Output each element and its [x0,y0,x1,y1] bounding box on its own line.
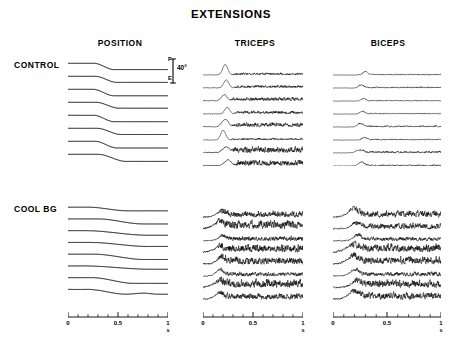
trace-line [333,71,441,75]
trace-line [68,278,168,284]
trace-group [203,62,303,166]
trace-line [203,130,303,140]
trace-line [68,231,168,236]
trace-line [333,149,441,153]
trace-line [68,219,168,224]
trace-line [333,221,441,229]
trace-line [68,63,168,69]
trace-line [68,115,168,121]
trace-line [203,277,303,288]
trace-line [203,234,303,241]
trace-line [333,111,441,114]
trace-line [333,241,441,253]
calibration-bar: F E 40° [168,57,198,87]
trace-line [203,209,303,218]
trace-group [333,62,441,166]
trace-line [68,102,168,108]
column-header-biceps: BICEPS [333,38,443,48]
row-label-cool-bg: COOL BG [14,204,57,214]
trace-line [203,291,303,300]
time-axis-triceps: 00.51s [203,312,303,332]
trace-line [333,98,441,101]
trace-line [333,233,441,241]
axis-label-one: 1 [301,320,304,326]
trace-line [68,289,168,294]
trace-line [333,289,441,300]
axis-label-zero: 0 [66,320,69,326]
axis-label-half: 0.5 [249,320,257,326]
figure-title: EXTENSIONS [0,8,462,20]
trace-line [333,85,441,89]
trace-line [333,268,441,277]
panel-control-triceps [203,62,303,166]
trace-line [68,89,168,96]
row-label-control: CONTROL [14,60,60,70]
calibration-bar-line [168,57,198,87]
trace-line [333,162,441,166]
trace-line [68,128,168,134]
axis-label-zero: 0 [201,320,204,326]
trace-line [68,242,168,246]
axis-unit-label: s [439,327,442,333]
axis-label-half: 0.5 [114,320,122,326]
axis-label-one: 1 [439,320,442,326]
trace-line [203,243,303,253]
calibration-flexion-label: F [168,57,171,63]
trace-line [203,80,303,88]
axis-label-half: 0.5 [383,320,391,326]
figure-root: EXTENSIONS POSITION TRICEPS BICEPS CONTR… [0,0,462,341]
trace-line [68,141,168,148]
axis-unit-label: s [301,327,304,333]
trace-group [333,206,441,300]
trace-line [203,107,303,114]
column-header-position: POSITION [68,38,172,48]
panel-coolbg-triceps [203,206,303,300]
trace-line [203,268,303,277]
calibration-magnitude-label: 40° [177,65,187,72]
trace-group [68,206,168,300]
trace-line [68,254,168,259]
trace-line [333,206,441,218]
time-axis-biceps: 00.51s [333,312,441,332]
time-axis-position: 00.51s [68,312,168,332]
trace-line [203,218,303,229]
trace-group [203,206,303,300]
panel-control-biceps [333,62,441,166]
trace-line [68,154,168,161]
trace-line [68,76,168,82]
panel-control-position [68,62,168,166]
axis-label-zero: 0 [331,320,334,326]
trace-line [203,94,303,101]
trace-line [333,123,441,127]
trace-line [203,119,303,127]
trace-line [203,254,303,265]
panel-coolbg-biceps [333,206,441,300]
axis-label-one: 1 [166,320,169,326]
trace-line [68,207,168,211]
trace-line [203,65,303,76]
trace-line [333,137,441,140]
trace-line [333,253,441,265]
trace-line [203,146,303,153]
trace-line [203,159,303,166]
column-header-triceps: TRICEPS [203,38,307,48]
trace-line [68,266,168,269]
trace-line [333,277,441,288]
axis-unit-label: s [166,327,169,333]
trace-group [68,62,168,166]
panel-coolbg-position [68,206,168,300]
calibration-extension-label: E [168,76,172,82]
